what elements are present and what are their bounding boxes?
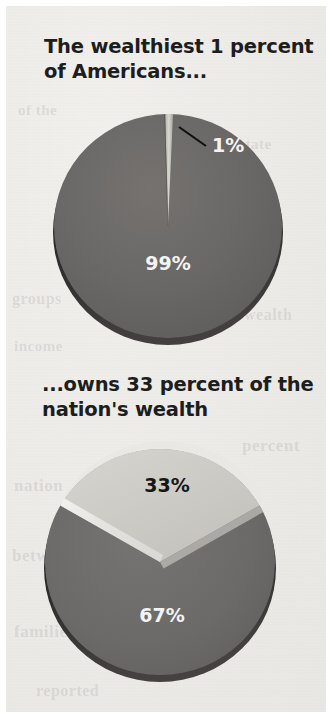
pie-one-callout-label: 1% [212, 134, 244, 156]
pie-two-small-label: 33% [144, 474, 189, 496]
chart-two-caption: ...owns 33 percent of the nation's wealt… [42, 372, 318, 422]
chart-one-caption: The wealthiest 1 percent of Americans... [44, 34, 314, 84]
pie-one-main-label: 99% [145, 252, 190, 274]
pie-chart-figure: of the estate groups wealth income perce… [0, 0, 332, 720]
pie-chart-population: 1% 99% [40, 104, 296, 352]
pie-two-large-label: 67% [139, 604, 184, 626]
pie-chart-wealth: 33% 67% [32, 432, 288, 688]
